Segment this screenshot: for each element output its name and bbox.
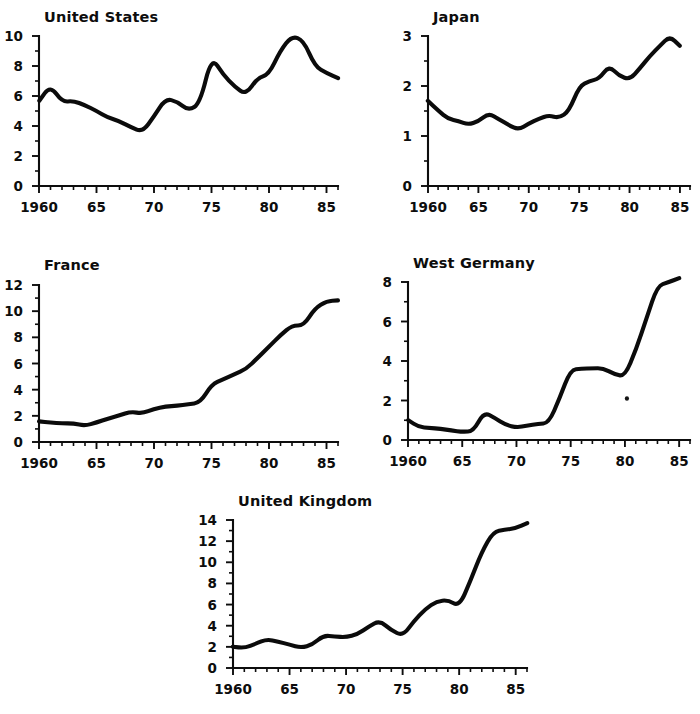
y-tick-label: 10 — [4, 303, 23, 319]
x-tick-label: 65 — [280, 681, 299, 697]
data-line-france — [39, 300, 338, 425]
y-tick-label: 6 — [14, 88, 23, 104]
x-tick-label: 65 — [453, 453, 472, 469]
data-line-united-states — [39, 38, 338, 130]
y-tick-label: 8 — [14, 329, 23, 345]
axis-lines — [39, 36, 338, 186]
x-tick-label: 75 — [202, 199, 221, 215]
chart-svg-united-states: United States024681019606570758085 — [0, 0, 360, 230]
chart-title-west-germany: West Germany — [413, 255, 535, 271]
y-tick-label: 10 — [198, 554, 217, 570]
x-tick-label: 85 — [317, 199, 336, 215]
y-tick-label: 12 — [198, 533, 217, 549]
x-tick-label: 80 — [620, 199, 639, 215]
y-tick-label: 8 — [383, 274, 392, 290]
axis-lines — [233, 520, 527, 668]
x-tick-label: 75 — [393, 681, 412, 697]
data-line-japan — [428, 38, 680, 128]
y-tick-label: 4 — [14, 382, 23, 398]
x-tick-label: 70 — [519, 199, 538, 215]
y-tick-label: 0 — [14, 178, 23, 194]
axis-lines — [408, 282, 690, 440]
chart-panel-united-states: United States024681019606570758085 — [0, 0, 360, 230]
y-tick-label: 0 — [14, 434, 23, 450]
x-tick-label: 70 — [145, 455, 164, 471]
y-tick-label: 2 — [14, 408, 23, 424]
y-tick-label: 3 — [403, 28, 412, 44]
y-tick-label: 0 — [403, 178, 412, 194]
chart-title-france: France — [44, 257, 100, 273]
y-tick-label: 4 — [383, 353, 392, 369]
x-tick-label: 65 — [87, 199, 106, 215]
x-tick-label: 65 — [87, 455, 106, 471]
x-tick-label: 85 — [671, 199, 690, 215]
y-tick-label: 2 — [14, 148, 23, 164]
chart-panel-united-kingdom: United Kingdom0246810121419606570758085 — [165, 480, 565, 714]
chart-panel-japan: Japan012319606570758085 — [370, 0, 700, 230]
y-tick-label: 4 — [208, 618, 217, 634]
y-tick-label: 8 — [208, 575, 217, 591]
chart-panel-france: France02468101219606570758085 — [0, 240, 360, 470]
y-tick-label: 12 — [4, 277, 23, 293]
chart-svg-france: France02468101219606570758085 — [0, 240, 360, 470]
y-tick-label: 0 — [383, 432, 392, 448]
x-tick-label: 75 — [570, 199, 589, 215]
y-tick-label: 10 — [4, 28, 23, 44]
data-line-united-kingdom — [233, 523, 528, 648]
y-tick-label: 14 — [198, 512, 217, 528]
multi-panel-line-chart-figure: United States024681019606570758085 Japan… — [0, 0, 700, 714]
chart-svg-west-germany: West Germany0246819606570758085 — [370, 240, 700, 470]
x-tick-label: 1960 — [389, 453, 427, 469]
y-tick-label: 4 — [14, 118, 23, 134]
x-tick-label: 80 — [450, 681, 469, 697]
x-tick-label: 1960 — [409, 199, 447, 215]
y-tick-label: 6 — [208, 597, 217, 613]
x-tick-label: 80 — [616, 453, 635, 469]
x-tick-label: 75 — [202, 455, 221, 471]
y-tick-label: 6 — [383, 314, 392, 330]
chart-title-united-kingdom: United Kingdom — [238, 493, 372, 509]
x-tick-label: 1960 — [20, 199, 58, 215]
x-tick-label: 1960 — [20, 455, 58, 471]
x-tick-label: 65 — [469, 199, 488, 215]
data-line-west-germany — [408, 278, 679, 431]
y-tick-label: 0 — [208, 660, 217, 676]
x-tick-label: 80 — [260, 455, 279, 471]
chart-panel-west-germany: West Germany0246819606570758085 — [370, 240, 700, 470]
x-tick-label: 80 — [260, 199, 279, 215]
axis-lines — [39, 285, 338, 442]
x-tick-label: 85 — [317, 455, 336, 471]
y-tick-label: 1 — [403, 128, 412, 144]
ink-speck-artifact — [625, 396, 629, 401]
x-tick-label: 70 — [507, 453, 526, 469]
x-tick-label: 75 — [561, 453, 580, 469]
chart-title-united-states: United States — [44, 9, 158, 25]
x-tick-label: 1960 — [214, 681, 252, 697]
y-tick-label: 6 — [14, 356, 23, 372]
y-tick-label: 2 — [383, 393, 392, 409]
x-tick-label: 85 — [506, 681, 525, 697]
y-tick-label: 8 — [14, 58, 23, 74]
chart-svg-united-kingdom: United Kingdom0246810121419606570758085 — [165, 480, 565, 714]
chart-title-japan: Japan — [432, 9, 480, 25]
x-tick-label: 85 — [670, 453, 689, 469]
chart-svg-japan: Japan012319606570758085 — [370, 0, 700, 230]
x-tick-label: 70 — [145, 199, 164, 215]
y-tick-label: 2 — [208, 639, 217, 655]
y-tick-label: 2 — [403, 78, 412, 94]
axis-lines — [428, 36, 690, 186]
x-tick-label: 70 — [337, 681, 356, 697]
